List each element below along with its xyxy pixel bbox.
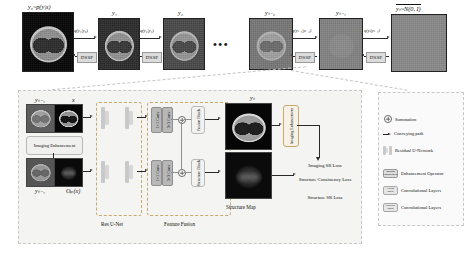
state-label-y1: y₁	[112, 10, 117, 16]
input-label-x: x	[72, 97, 75, 103]
ct-image-y2	[163, 18, 205, 70]
sum-to-block-top	[184, 119, 191, 120]
legend-label: Enhancement Operator	[401, 171, 443, 176]
state-label-yt2: yₜ₋₂	[265, 10, 275, 16]
unet-bar	[129, 111, 133, 125]
legend-item-residual-unet: Residual U-Network	[383, 146, 433, 155]
input-image-op-x	[54, 158, 83, 187]
forward-label-2: q(y₂|y₁)	[140, 29, 154, 34]
enhancement-to-loss-h	[297, 125, 319, 126]
conv-label: 3×3 Conv	[165, 112, 170, 129]
dssp-block-1[interactable]: DSSP	[77, 52, 97, 63]
legend-item-structure-layers: Structure Block Convolutional Layers	[383, 203, 441, 212]
legend-label: Convolutional Layers	[401, 205, 441, 210]
legend-label: Convolutional Layers	[401, 188, 441, 193]
input-label-yt1-top: yₜ₋₁	[35, 97, 45, 103]
structure-block-label: Structure Block	[196, 160, 201, 186]
imaging-enhancement-box[interactable]: Imaging Enhancement	[26, 136, 83, 155]
enhancement-to-loss-v	[319, 125, 320, 158]
conv-block-3x3-bottom[interactable]: 3×3 Conv	[162, 160, 173, 186]
dssp-block-4[interactable]: DSSP	[366, 52, 386, 63]
unet-bar	[105, 111, 109, 125]
imaging-enhancement-operator-label: Imaging Enhancement	[289, 108, 294, 144]
output-label-yt: yₜ	[250, 95, 255, 101]
ct-image-y0	[22, 12, 74, 72]
conv-label: 3×3 Conv	[165, 165, 170, 182]
input-label-op-x: Oₚ(x)	[66, 188, 80, 194]
imaging-enhancement-operator[interactable]: Imaging Enhancement	[283, 105, 299, 147]
reverse-arrow-head-3	[290, 54, 293, 56]
input-image-x	[54, 104, 83, 133]
enhancement-chip-icon: Imaging Enhancement	[383, 169, 398, 178]
loss-imaging-sr: Imaging SR Loss	[296, 163, 354, 170]
reverse-arrow-head-1	[72, 54, 75, 56]
state-label-y2: y₂	[178, 10, 183, 16]
forward-arrow-1	[73, 38, 95, 39]
arrow-head-to-enhancement	[279, 123, 282, 125]
forward-label-3: q(yₜ₋₁|yₜ₋₂)	[292, 29, 311, 33]
input-image-yt1-bottom	[26, 158, 55, 187]
arrow-structuremap-to-loss	[272, 175, 294, 176]
arrow-to-output-top	[205, 119, 219, 120]
sum-to-block-bottom	[184, 172, 191, 173]
structure-block[interactable]: Structure Block	[191, 159, 205, 187]
loss-structure-sr: Structure SR Loss	[296, 195, 354, 202]
forward-arrow-3	[292, 38, 316, 39]
caption-feature-fusion: Feature Fusion	[164, 221, 195, 227]
zoom-guide-right	[291, 70, 408, 91]
unet-icon	[383, 146, 392, 155]
summation-icon	[384, 115, 392, 123]
arrow-head-to-loss	[316, 157, 320, 161]
arrow-to-output-bottom	[205, 172, 219, 173]
loss-structure-consistency: Structure Consistency Loss	[296, 177, 354, 184]
conv-block-3x3-top[interactable]: 3×3 Conv	[162, 107, 173, 133]
caption-res-unet: Res U-Net	[101, 221, 123, 227]
unet-bar	[105, 165, 109, 179]
fusion-block-label: Fusion Block	[196, 109, 201, 131]
summation-icon-top	[178, 116, 186, 124]
conv-to-sum-bottom	[171, 172, 178, 173]
ct-image-yt2	[249, 18, 293, 70]
reverse-arrow-head-4	[361, 54, 364, 56]
dssp-block-2[interactable]: DSSP	[142, 52, 162, 63]
legend-label: Conveying path	[394, 131, 423, 136]
arrow-head-to-output-top	[218, 117, 221, 119]
forward-arrow-head-4	[387, 36, 390, 38]
conv-block-1x1-top[interactable]: 1×1 Conv	[151, 107, 162, 133]
input-label-yt1-bottom: yₜ₋₁	[35, 188, 45, 194]
forward-label-4: q(yₜ|yₜ₋₁)	[364, 29, 380, 33]
arrow-icon	[383, 132, 391, 136]
unet-bar	[129, 165, 133, 179]
ct-image-yt1	[319, 18, 363, 70]
fusion-chip-icon: Fusion Block	[383, 186, 398, 195]
conv-block-1x1-bottom[interactable]: 1×1 Conv	[151, 160, 162, 186]
ellipsis: •••	[213, 38, 229, 50]
input-image-yt1-top	[26, 104, 55, 133]
state-label-yt1: yₜ₋₁	[336, 10, 346, 16]
state-label-y0: y₀~p(y|x)	[28, 4, 51, 10]
dssp-block-3[interactable]: DSSP	[295, 52, 315, 63]
forward-arrow-4	[363, 38, 388, 39]
conv-to-sum-top	[171, 119, 178, 120]
structure-chip-icon: Structure Block	[383, 203, 398, 212]
forward-arrow-2	[139, 38, 160, 39]
forward-arrow-head-3	[315, 36, 318, 38]
output-image-structure-map	[225, 152, 272, 199]
legend-item-conveying-path: Conveying path	[383, 131, 423, 136]
summation-conveying-path	[181, 122, 182, 169]
reverse-arrow-head-2	[137, 54, 140, 56]
conv-label: 1×1 Conv	[154, 165, 159, 182]
arrow-head-to-unet-top	[90, 115, 93, 117]
figure-root: y₀~p(y|x) y₁ y₂ ••• yₜ₋₂ yₜ₋₁ yₜ~N(0, I)…	[0, 0, 464, 254]
conv-label: 1×1 Conv	[154, 112, 159, 129]
legend-item-enhancement-operator: Imaging Enhancement Enhancement Operator	[383, 169, 443, 178]
legend-label: Residual U-Network	[395, 148, 433, 153]
forward-arrow-head-1	[94, 36, 97, 38]
arrow-head-to-output-bottom	[218, 170, 221, 172]
summation-icon-bottom	[178, 169, 186, 177]
forward-arrow-head-2	[159, 36, 162, 38]
legend-item-summation: Summation	[384, 115, 416, 123]
fusion-block[interactable]: Fusion Block	[191, 106, 205, 134]
output-image-yt	[225, 103, 272, 150]
ct-image-y1	[98, 18, 140, 70]
